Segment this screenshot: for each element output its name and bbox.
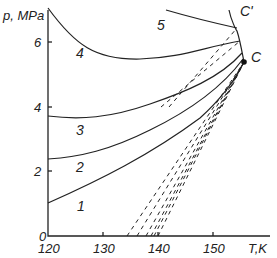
critical-point-marker xyxy=(241,59,247,65)
curve-label-5: 5 xyxy=(157,17,165,33)
x-tick-label-150: 150 xyxy=(203,241,225,256)
y-tick-label-2: 2 xyxy=(33,164,42,179)
curve-5 xyxy=(166,10,237,28)
x-tick-label-130: 130 xyxy=(93,241,115,256)
y-tick-label-4: 4 xyxy=(34,100,41,115)
curve-label-1: 1 xyxy=(77,198,85,214)
x-tick-label-140: 140 xyxy=(148,241,170,256)
x-tick-label-120: 120 xyxy=(38,241,60,256)
curve-label-2: 2 xyxy=(75,159,84,175)
critical-line-label: C' xyxy=(240,3,254,19)
curve-2 xyxy=(48,59,243,159)
y-tick-label-6: 6 xyxy=(34,35,42,50)
y-axis-label: p, MPa xyxy=(2,8,44,23)
x-axis-label: T,K xyxy=(248,241,268,256)
chart: 0 2 4 6 120 130 140 150 T,K p, MPa 1 2 3… xyxy=(0,0,277,258)
curve-label-3: 3 xyxy=(76,122,84,138)
curve-label-4: 4 xyxy=(76,45,84,61)
critical-point-label: C xyxy=(251,49,262,65)
